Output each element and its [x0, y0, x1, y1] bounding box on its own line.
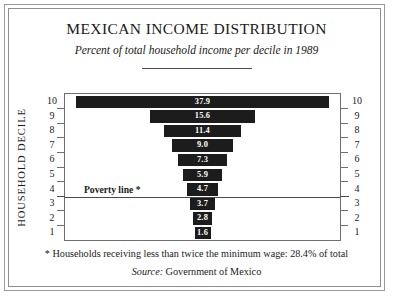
decile-tick-label-left: 6: [44, 154, 60, 164]
bar: 9.0: [172, 139, 232, 151]
axis-tick-mark-right: [341, 137, 348, 138]
axis-tick-mark-left: [57, 181, 64, 182]
bar-row: 15.6: [65, 109, 340, 124]
bar-row: 1.6: [65, 226, 340, 241]
bar-row: 9.0: [65, 138, 340, 153]
poverty-line-label: Poverty line *: [84, 184, 140, 195]
axis-tick-mark-right: [341, 152, 348, 153]
decile-tick-label-left: 7: [44, 140, 60, 150]
chart-figure: MEXICAN INCOME DISTRIBUTION Percent of t…: [0, 0, 393, 299]
bar: 3.7: [190, 198, 215, 210]
axis-tick-mark-left: [57, 108, 64, 109]
decile-tick-label-left: 1: [44, 227, 60, 237]
poverty-line: [65, 197, 340, 198]
axis-tick-mark-left: [57, 225, 64, 226]
bar-row: 7.3: [65, 153, 340, 168]
bar-value-label: 5.9: [197, 171, 208, 179]
bar-value-label: 9.0: [197, 141, 208, 149]
bar: 7.3: [178, 154, 227, 166]
source-value: Government of Mexico: [166, 266, 262, 277]
poverty-line-extension-right: [340, 196, 349, 197]
decile-tick-label-left: 3: [44, 198, 60, 208]
decile-tick-label-right: 2: [349, 213, 365, 223]
bar-value-label: 37.9: [195, 98, 210, 106]
axis-tick-mark-right: [341, 181, 348, 182]
axis-tick-mark-left: [57, 152, 64, 153]
poverty-line-extension-left: [57, 196, 65, 197]
bar-row: 5.9: [65, 168, 340, 183]
axis-tick-mark-left: [57, 137, 64, 138]
bar-row: 2.8: [65, 211, 340, 226]
bar-value-label: 2.8: [197, 214, 208, 222]
bar-value-label: 1.6: [197, 229, 208, 237]
axis-tick-mark-right: [341, 210, 348, 211]
decile-tick-label-left: 5: [44, 169, 60, 179]
bar: 4.7: [187, 183, 218, 195]
axis-tick-mark-left: [57, 123, 64, 124]
bar: 2.8: [193, 212, 212, 224]
axis-tick-mark-right: [341, 225, 348, 226]
y-axis-title: HOUSEHOLD DECILE: [14, 95, 28, 240]
decile-tick-label-right: 9: [349, 111, 365, 121]
bar-row: 37.9: [65, 95, 340, 110]
decile-tick-label-right: 6: [349, 154, 365, 164]
decile-tick-label-right: 5: [349, 169, 365, 179]
axis-tick-mark-right: [341, 123, 348, 124]
decile-tick-label-left: 8: [44, 125, 60, 135]
decile-tick-label-right: 4: [349, 184, 365, 194]
bar-value-label: 15.6: [195, 112, 210, 120]
y-axis-title-label: HOUSEHOLD DECILE: [16, 108, 27, 227]
bar: 1.6: [195, 227, 211, 239]
bar-value-label: 11.4: [195, 127, 210, 135]
bar: 5.9: [183, 169, 222, 181]
chart-subtitle: Percent of total household income per de…: [0, 44, 393, 56]
decile-tick-label-left: 9: [44, 111, 60, 121]
decile-tick-label-left: 10: [44, 96, 60, 106]
decile-tick-label-right: 10: [349, 96, 365, 106]
bar: 11.4: [164, 125, 240, 137]
decile-tick-label-right: 7: [349, 140, 365, 150]
title-divider-rule: [142, 68, 252, 69]
decile-tick-label-right: 1: [349, 227, 365, 237]
bar-row: 3.7: [65, 197, 340, 212]
bar-value-label: 4.7: [197, 185, 208, 193]
plot-area: 37.915.611.49.07.35.94.73.72.81.6: [64, 93, 341, 241]
bars-container: 37.915.611.49.07.35.94.73.72.81.6: [65, 94, 340, 240]
chart-title: MEXICAN INCOME DISTRIBUTION: [0, 20, 393, 38]
axis-tick-mark-left: [57, 210, 64, 211]
axis-tick-mark-right: [341, 108, 348, 109]
axis-tick-mark-left: [57, 167, 64, 168]
bar: 37.9: [76, 96, 329, 108]
decile-tick-label-right: 8: [349, 125, 365, 135]
bar: 15.6: [150, 110, 254, 122]
bar-row: 11.4: [65, 124, 340, 139]
decile-tick-label-left: 2: [44, 213, 60, 223]
bar-value-label: 7.3: [197, 156, 208, 164]
decile-tick-label-left: 4: [44, 184, 60, 194]
bar-value-label: 3.7: [197, 200, 208, 208]
axis-tick-mark-right: [341, 167, 348, 168]
footnote: * Households receiving less than twice t…: [0, 248, 393, 259]
source-note: Source: Government of Mexico: [0, 266, 393, 277]
source-label: Source:: [132, 266, 163, 277]
decile-tick-label-right: 3: [349, 198, 365, 208]
